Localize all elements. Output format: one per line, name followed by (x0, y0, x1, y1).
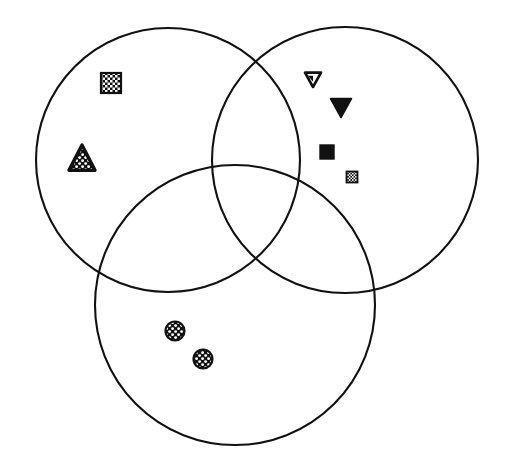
markers-group (69, 73, 358, 369)
speckled-circle-icon[interactable] (194, 350, 213, 369)
solid-down-triangle-icon[interactable] (331, 99, 352, 118)
checkered-square-icon[interactable] (101, 73, 121, 93)
speckled-circle-icon[interactable] (166, 322, 185, 341)
speckled-triangle-icon[interactable] (69, 145, 95, 170)
venn-diagram-canvas (0, 0, 507, 464)
outlined-down-triangle-icon[interactable] (305, 73, 321, 87)
venn-diagram-figure (0, 0, 507, 464)
set-circle-bottom[interactable] (95, 165, 375, 445)
set-circle-right[interactable] (212, 27, 478, 293)
small-checkered-square-icon[interactable] (347, 172, 358, 183)
solid-square-icon[interactable] (320, 145, 334, 159)
